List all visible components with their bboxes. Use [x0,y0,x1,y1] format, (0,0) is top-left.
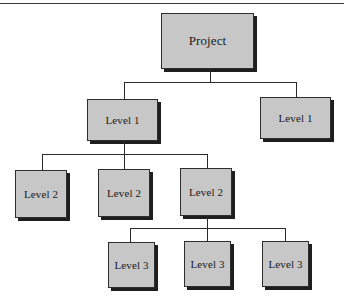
node-level3-b: Level 3 [184,241,231,287]
connector-level2-a-drop [42,154,43,170]
node-level3-c-label: Level 3 [269,258,303,270]
node-project: Project [161,13,254,69]
connector-level3-a-drop [130,228,131,242]
node-level2-b-label: Level 2 [107,187,141,199]
connector-level1-down [124,141,125,155]
node-level1-right-label: Level 1 [279,112,313,124]
node-level2-b: Level 2 [98,169,150,217]
connector-level1-left-drop [124,82,125,99]
node-level2-a: Level 2 [15,170,67,218]
node-level3-b-label: Level 3 [191,258,225,270]
connector-level1-right-drop [296,82,297,97]
connector-project-down [210,69,211,83]
node-level1-right: Level 1 [260,97,331,139]
node-level3-c: Level 3 [262,241,309,287]
connector-level3-b-drop [207,228,208,241]
node-level3-a: Level 3 [108,242,155,288]
top-rule-divider [0,3,344,4]
node-level2-c: Level 2 [180,168,232,216]
node-level1-left-label: Level 1 [106,114,140,126]
connector-level3-bar [130,228,286,229]
node-level2-a-label: Level 2 [24,188,58,200]
node-level3-a-label: Level 3 [115,259,149,271]
node-project-label: Project [189,33,227,49]
connector-level3-c-drop [285,228,286,241]
connector-level2-c-drop [207,154,208,168]
connector-level2-b-drop [124,154,125,169]
node-level2-c-label: Level 2 [189,186,223,198]
node-level1-left: Level 1 [87,99,158,141]
connector-level2-bar [42,154,208,155]
connector-level1-bar [124,82,297,83]
